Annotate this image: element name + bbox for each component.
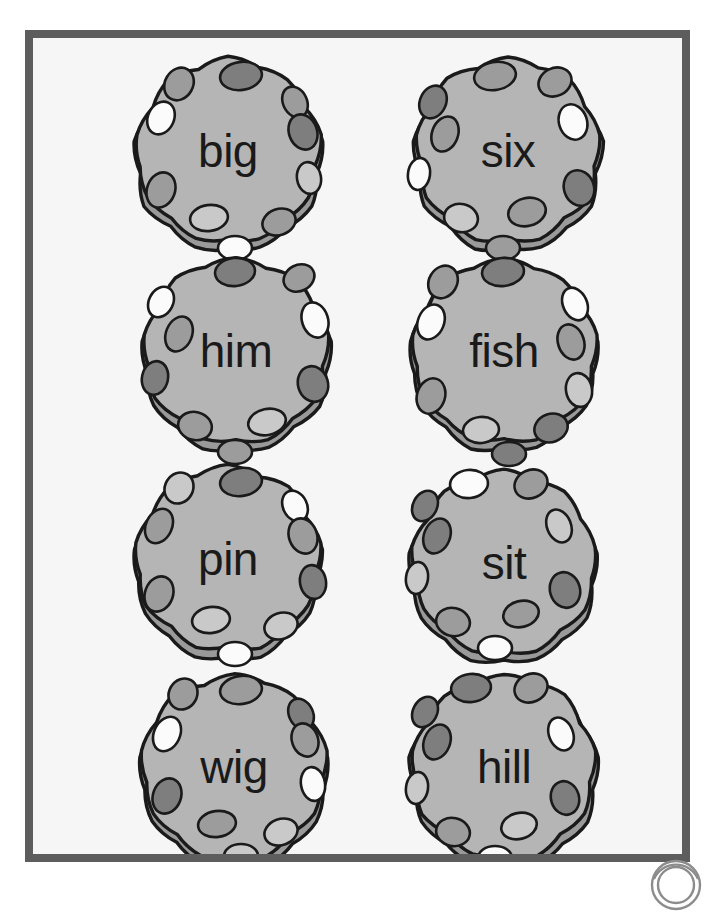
- ball-illustration: fish: [399, 250, 609, 460]
- ball-six[interactable]: six: [403, 50, 613, 260]
- ball-word-label: sit: [482, 537, 527, 589]
- ball-grid: bigsixhimfishpinsitwighill: [33, 38, 682, 854]
- ball-him[interactable]: him: [131, 250, 341, 460]
- ball-illustration: him: [131, 250, 341, 460]
- ball-illustration: hill: [399, 666, 609, 862]
- ball-illustration: pin: [123, 458, 333, 668]
- ball-spot-10: [478, 636, 512, 660]
- ball-illustration: sit: [399, 462, 609, 672]
- worksheet-frame: bigsixhimfishpinsitwighill: [25, 30, 690, 862]
- ball-fish[interactable]: fish: [399, 250, 609, 460]
- ball-hill[interactable]: hill: [399, 666, 609, 862]
- ball-illustration: wig: [129, 666, 339, 862]
- ball-big[interactable]: big: [123, 50, 333, 260]
- ball-spot-10: [224, 844, 258, 862]
- ball-spot-10: [218, 642, 252, 666]
- ball-word-label: six: [481, 125, 536, 177]
- rounded-watermark-logo-icon: [648, 857, 704, 913]
- ball-spot-10: [478, 846, 512, 862]
- ball-word-label: big: [198, 125, 258, 177]
- ball-wig[interactable]: wig: [129, 666, 339, 862]
- ball-word-label: hill: [477, 741, 531, 793]
- ball-word-label: fish: [469, 325, 539, 377]
- ball-word-label: wig: [199, 741, 268, 793]
- ball-illustration: six: [403, 50, 613, 260]
- ball-illustration: big: [123, 50, 333, 260]
- ball-word-label: pin: [198, 533, 258, 585]
- ball-pin[interactable]: pin: [123, 458, 333, 668]
- ball-sit[interactable]: sit: [399, 462, 609, 672]
- ball-word-label: him: [200, 325, 273, 377]
